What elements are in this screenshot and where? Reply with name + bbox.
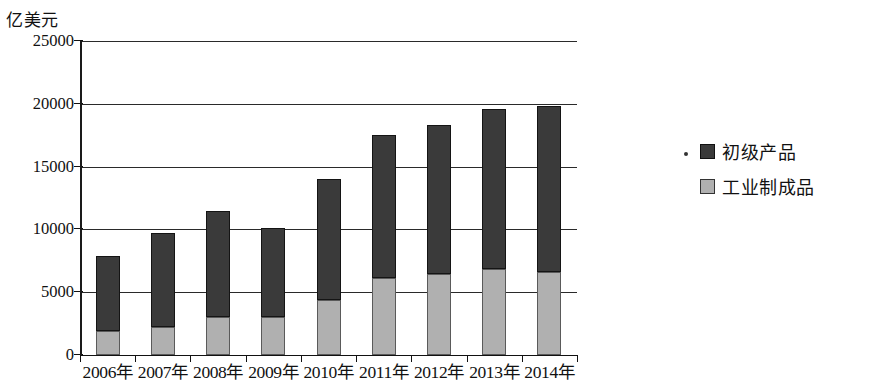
y-axis-title: 亿美元 [6,6,59,31]
x-axis-label: 2012年 [408,358,470,383]
bar-stack [96,256,120,355]
bar-segment-primary-products [317,179,341,299]
y-axis-tick-label: 5000 [8,284,74,300]
bar-stack [427,125,451,354]
legend-label: 初级产品 [722,138,796,164]
legend-label: 工业制成品 [722,173,815,199]
bar-segment-primary-products [427,125,451,274]
bar-stack [537,106,561,354]
bar-segment-manufactured-goods [151,327,175,355]
bar-segment-primary-products [537,106,561,271]
bar-segment-primary-products [206,211,230,318]
legend: 初级产品工业制成品 [700,138,815,208]
bar-segment-manufactured-goods [427,274,451,354]
bar-segment-manufactured-goods [261,317,285,355]
y-axis-tick-label: 20000 [8,96,74,112]
legend-item: 初级产品 [700,138,815,164]
x-axis-label: 2011年 [353,358,415,383]
bar-stack [372,135,396,354]
y-axis-tick-label: 10000 [8,221,74,237]
legend-item: 工业制成品 [700,173,815,199]
x-axis-label: 2008年 [187,358,249,383]
x-axis-label: 2007年 [132,358,194,383]
bar-segment-manufactured-goods [372,278,396,354]
legend-bullet-icon [684,152,688,156]
x-axis-label: 2010年 [298,358,360,383]
legend-swatch-icon [700,144,715,159]
x-axis-label: 2014年 [518,358,580,383]
bar-segment-manufactured-goods [96,331,120,355]
bar-segment-primary-products [482,109,506,269]
legend-swatch-icon [700,179,715,194]
x-axis-labels: 2006年2007年2008年2009年2010年2011年2012年2013年… [0,358,660,384]
bar-segment-manufactured-goods [206,317,230,355]
bar-segment-primary-products [261,228,285,317]
bar-stack [482,109,506,355]
x-axis-label: 2006年 [77,358,139,383]
bar-stack [261,228,285,355]
bar-stack [151,233,175,355]
bar-segment-manufactured-goods [482,269,506,354]
bar-segment-manufactured-goods [537,272,561,355]
bar-segment-primary-products [151,233,175,327]
bar-stack [317,179,341,355]
x-axis-label: 2013年 [463,358,525,383]
y-axis-tick-label: 15000 [8,159,74,175]
stacked-bar-chart: 亿美元 0500010000150002000025000 2006年2007年… [0,0,873,384]
y-axis-tick-label: 25000 [8,33,74,49]
bar-segment-primary-products [96,256,120,331]
bar-segment-manufactured-goods [317,300,341,355]
bar-segment-primary-products [372,135,396,278]
x-axis-label: 2009年 [242,358,304,383]
bar-stack [206,211,230,355]
